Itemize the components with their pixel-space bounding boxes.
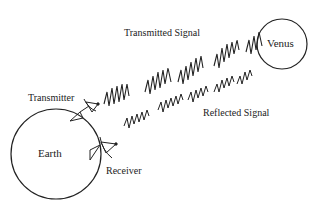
transmitter-antenna-icon (70, 99, 99, 121)
transmitted-signal-label: Transmitted Signal (124, 27, 200, 38)
transmitted-signal-wave (104, 32, 262, 106)
reflected-signal-label: Reflected Signal (203, 107, 269, 118)
receiver-label: Receiver (106, 165, 142, 176)
venus-label: Venus (267, 37, 294, 49)
receiver-antenna-icon (90, 137, 117, 160)
transmitter-label: Transmitter (28, 92, 74, 103)
earth-label: Earth (38, 147, 62, 159)
